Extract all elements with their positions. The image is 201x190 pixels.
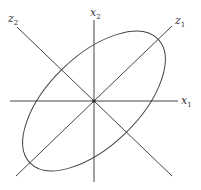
ellipse (0, 7, 189, 190)
x1-label: x1 (181, 94, 192, 109)
ellipse-axes-diagram: x1 x2 z1 z2 (0, 0, 201, 190)
x2-label: x2 (90, 6, 101, 21)
z1-label: z1 (174, 14, 185, 29)
z2-label: z2 (7, 12, 18, 27)
origin-point (92, 99, 95, 102)
